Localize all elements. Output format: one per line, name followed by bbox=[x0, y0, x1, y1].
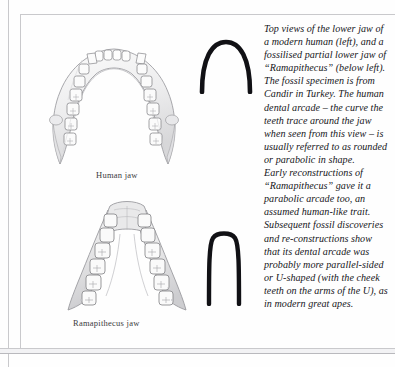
caption-paragraph-2: Early reconstructions of “Ramapithecus” … bbox=[264, 166, 390, 310]
document-page: Human jaw bbox=[0, 0, 395, 367]
frame-rule-top bbox=[20, 14, 395, 15]
human-jaw-caption: Human jaw bbox=[96, 170, 138, 180]
caption-text-column: Top views of the lower jaw of a modern h… bbox=[264, 22, 390, 310]
u-shaped-arcade-diagram bbox=[198, 228, 250, 306]
ramapithecus-jaw-caption: Ramapithecus jaw bbox=[73, 318, 140, 328]
frame-rule-bottom-upper bbox=[0, 348, 395, 349]
human-jaw-illustration bbox=[22, 24, 202, 172]
frame-rule-left-outer bbox=[8, 0, 9, 367]
parabolic-arcade-diagram bbox=[196, 36, 256, 94]
ramapithecus-jaw-illustration bbox=[48, 196, 208, 320]
frame-rule-left-inner bbox=[20, 14, 21, 348]
caption-paragraph-1: Top views of the lower jaw of a modern h… bbox=[264, 22, 390, 166]
frame-rule-bottom-lower bbox=[0, 353, 395, 354]
